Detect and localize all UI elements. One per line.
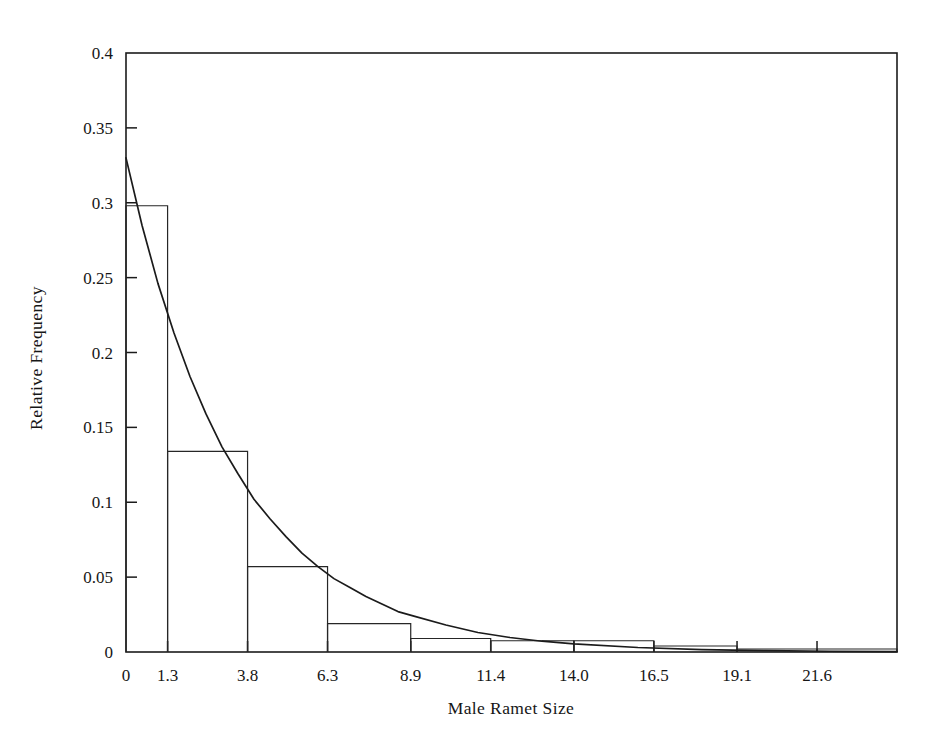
x-tick-label-19.1: 19.1	[722, 666, 752, 685]
x-tick-label-14.0: 14.0	[559, 666, 589, 685]
histogram-bar	[248, 567, 328, 652]
x-tick-label-6.3: 6.3	[317, 666, 338, 685]
y-tick-label-0: 0	[105, 643, 114, 662]
x-tick-label-3.8: 3.8	[237, 666, 258, 685]
y-tick-label-0.4: 0.4	[92, 44, 114, 63]
y-axis-tick-labels: 00.050.10.150.20.250.30.350.4	[83, 44, 113, 662]
histogram-bars	[126, 206, 897, 652]
y-tick-label-0.15: 0.15	[83, 418, 113, 437]
y-tick-label-0.25: 0.25	[83, 269, 113, 288]
x-tick-label-1.3: 1.3	[157, 666, 178, 685]
x-axis-title: Male Ramet Size	[448, 698, 575, 718]
histogram-bar	[126, 206, 168, 652]
y-tick-label-0.1: 0.1	[92, 493, 113, 512]
histogram-bar	[168, 451, 248, 652]
histogram-bar	[411, 639, 491, 652]
fitted-exponential-curve	[126, 158, 897, 652]
x-tick-label-11.4: 11.4	[476, 666, 506, 685]
y-tick-label-0.35: 0.35	[83, 119, 113, 138]
x-tick-label-21.6: 21.6	[802, 666, 832, 685]
y-tick-label-0.2: 0.2	[92, 344, 113, 363]
plot-frame	[126, 53, 897, 652]
y-tick-label-0.05: 0.05	[83, 568, 113, 587]
histogram-chart: 00.050.10.150.20.250.30.350.4 01.33.86.3…	[0, 0, 933, 756]
x-axis-tick-labels: 01.33.86.38.911.414.016.519.121.6	[122, 666, 832, 685]
y-tick-label-0.3: 0.3	[92, 194, 113, 213]
x-tick-label-0: 0	[122, 666, 131, 685]
histogram-bar	[328, 624, 411, 652]
y-axis-title: Relative Frequency	[26, 286, 46, 430]
x-tick-label-16.5: 16.5	[639, 666, 669, 685]
x-tick-label-8.9: 8.9	[400, 666, 421, 685]
figure-container: 00.050.10.150.20.250.30.350.4 01.33.86.3…	[0, 0, 933, 756]
